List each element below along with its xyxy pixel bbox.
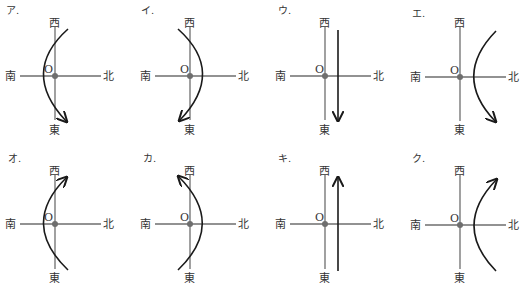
north-label: 北 [508,71,519,84]
south-label: 南 [410,219,421,232]
origin-label: O [180,63,189,76]
panel-i: イ. 西 東 南 北 O [140,5,249,137]
west-label: 西 [49,165,60,178]
north-label: 北 [103,218,114,231]
origin-label: O [450,212,459,225]
panel-label: イ. [141,5,154,16]
panel-label: ウ. [278,5,291,16]
south-label: 南 [275,218,286,231]
panel-e: エ. 西 東 南 北 O [410,8,519,137]
panel-label: オ. [8,153,21,164]
south-label: 南 [5,70,16,83]
origin-label: O [315,211,324,224]
sun-path-arrow [474,31,496,121]
origin-label: O [180,211,189,224]
west-label: 西 [49,17,60,30]
south-label: 南 [140,70,151,83]
east-label: 東 [319,272,330,285]
origin-label: O [44,63,53,76]
south-label: 南 [410,71,421,84]
west-label: 西 [184,165,195,178]
east-label: 東 [454,272,465,285]
east-label: 東 [184,124,195,137]
panel-label: キ. [278,153,291,164]
panel-ki: キ. 西 東 南 北 O [275,153,384,285]
west-label: 西 [454,17,465,30]
north-label: 北 [238,218,249,231]
panel-a: ア. 西 東 南 北 O [5,5,114,137]
east-label: 東 [49,272,60,285]
south-label: 南 [5,218,16,231]
west-label: 西 [319,17,330,30]
east-label: 東 [454,124,465,137]
origin-label: O [450,64,459,77]
east-label: 東 [184,272,195,285]
panel-u: ウ. 西 東 南 北 O [275,5,384,137]
north-label: 北 [238,70,249,83]
panel-o: オ. 西 東 南 北 O [5,153,114,285]
panel-label: ク. [412,153,425,164]
panel-ka: カ. 西 東 南 北 O [140,153,249,285]
north-label: 北 [373,218,384,231]
south-label: 南 [275,70,286,83]
north-label: 北 [508,219,519,232]
panel-label: カ. [143,153,156,164]
west-label: 西 [184,17,195,30]
north-label: 北 [103,70,114,83]
east-label: 東 [319,124,330,137]
west-label: 西 [454,165,465,178]
panel-label: ア. [6,5,19,16]
east-label: 東 [49,124,60,137]
sun-path-diagram: ア. 西 東 南 北 O イ. 西 東 南 北 O ウ. 西 東 南 北 O [0,0,531,288]
origin-label: O [315,63,324,76]
panel-ku: ク. 西 東 南 北 O [410,153,519,285]
south-label: 南 [140,218,151,231]
panel-label: エ. [412,8,425,19]
north-label: 北 [373,70,384,83]
west-label: 西 [319,165,330,178]
